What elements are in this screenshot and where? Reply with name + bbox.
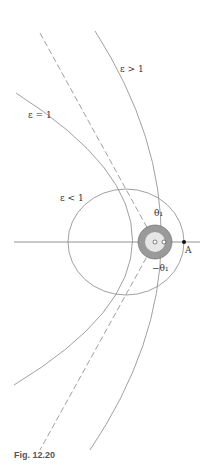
label-neg-theta: −θ₁ [152, 263, 169, 273]
point-a [182, 240, 186, 244]
earth-center [153, 240, 157, 244]
label-point-a: A [184, 245, 192, 255]
label-parabola: ε = 1 [28, 110, 52, 120]
label-ellipse: ε < 1 [60, 193, 84, 203]
parabola-orbit [14, 93, 133, 385]
figure-caption: Fig. 12.20 [14, 450, 55, 460]
orbit-diagram: ε > 1 ε = 1 ε < 1 θ₁ −θ₁ A [0, 0, 218, 472]
label-hyperbola: ε > 1 [120, 64, 144, 74]
dashed-line-lower [40, 242, 155, 450]
label-theta: θ₁ [154, 208, 163, 218]
focus-point [162, 240, 166, 244]
